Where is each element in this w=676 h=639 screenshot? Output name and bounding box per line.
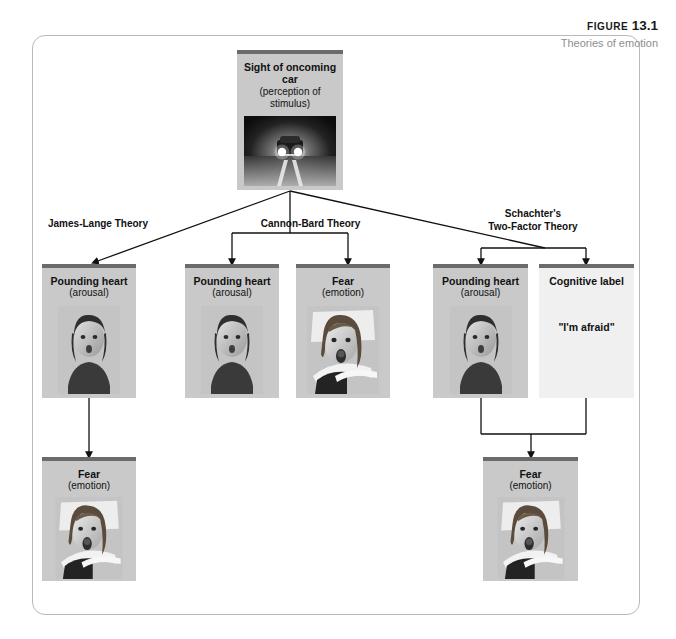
figure-container: FIGURE 13.1 Theories of emotion (0, 0, 676, 639)
figure-number: 13.1 (632, 18, 658, 33)
theory-label-james-lange: James-Lange Theory (48, 218, 148, 231)
cognitive-label-quote: "I'm afraid" (539, 321, 634, 333)
node-cannon-bard-pounding-heart: Pounding heart (arousal) (185, 264, 279, 398)
node-sight-of-oncoming-car: Sight of oncoming car (perception of sti… (237, 50, 343, 190)
node-title: Cognitive label (539, 268, 634, 287)
figure-label-prefix: FIGURE (587, 21, 628, 32)
node-subtitle: (emotion) (296, 287, 390, 299)
node-subtitle: (arousal) (433, 287, 528, 299)
theory-label-schachter-line2: Two-Factor Theory (468, 221, 598, 234)
node-subtitle: (perception of stimulus) (237, 86, 343, 110)
node-subtitle: (arousal) (42, 287, 136, 299)
theory-label-cannon-bard-text: Cannon-Bard Theory (261, 218, 360, 231)
node-cannon-bard-fear: Fear (emotion) (296, 264, 390, 398)
fearful-face-driving-photo (495, 497, 567, 579)
fearful-face-driving-photo (307, 306, 379, 394)
theory-label-schachter-line1: Schachter's (468, 208, 598, 221)
node-title: Fear (483, 461, 578, 480)
pounding-heart-face-photo (201, 306, 263, 394)
node-title: Fear (296, 268, 390, 287)
node-title: Pounding heart (433, 268, 528, 287)
pounding-heart-face-photo (58, 306, 120, 394)
node-schachter-pounding-heart: Pounding heart (arousal) (433, 264, 528, 398)
oncoming-car-photo (244, 116, 336, 186)
figure-label: FIGURE 13.1 (561, 18, 658, 35)
node-schachter-cognitive-label: Cognitive label "I'm afraid" (539, 264, 634, 398)
node-subtitle: (arousal) (185, 287, 279, 299)
node-title: Pounding heart (42, 268, 136, 287)
node-title: Fear (42, 461, 136, 480)
fearful-face-driving-photo (53, 497, 125, 579)
node-title: Sight of oncoming car (237, 54, 343, 86)
figure-subtitle: Theories of emotion (561, 37, 658, 51)
node-james-lange-pounding-heart: Pounding heart (arousal) (42, 264, 136, 398)
node-title: Pounding heart (185, 268, 279, 287)
node-subtitle: (emotion) (42, 480, 136, 492)
node-schachter-fear: Fear (emotion) (483, 457, 578, 581)
figure-caption: FIGURE 13.1 Theories of emotion (561, 18, 658, 51)
pounding-heart-face-photo (450, 306, 512, 394)
node-subtitle: (emotion) (483, 480, 578, 492)
node-james-lange-fear: Fear (emotion) (42, 457, 136, 581)
theory-label-schachter: Schachter's Two-Factor Theory (468, 208, 598, 233)
